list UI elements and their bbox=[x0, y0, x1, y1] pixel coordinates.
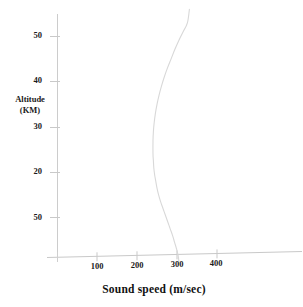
x-tick-label-300: 300 bbox=[161, 260, 193, 269]
y-axis-title-line1: Altitude bbox=[2, 94, 58, 105]
y-tick-label-30: 30 bbox=[16, 122, 42, 131]
sound-speed-profile-chart: 50 50 40 30 20 Altitude (KM) 100 200 300… bbox=[0, 0, 303, 307]
y-tick-label-40: 40 bbox=[16, 76, 42, 85]
y-axis-title: Altitude (KM) bbox=[2, 94, 58, 116]
y-axis-ticks bbox=[50, 37, 60, 218]
x-tick-label-100: 100 bbox=[81, 262, 113, 271]
y-tick-label-50: 50 bbox=[16, 213, 42, 222]
y-axis-title-line2: (KM) bbox=[2, 105, 58, 116]
y-tick-label-20: 20 bbox=[16, 167, 42, 176]
x-axis-title: Sound speed (m/sec) bbox=[44, 283, 264, 295]
x-axis-line bbox=[47, 252, 302, 258]
sound-speed-curve bbox=[153, 9, 189, 262]
x-tick-label-400: 400 bbox=[200, 259, 232, 268]
y-tick-label-50b: 50 bbox=[16, 31, 42, 40]
x-tick-label-200: 200 bbox=[121, 261, 153, 270]
